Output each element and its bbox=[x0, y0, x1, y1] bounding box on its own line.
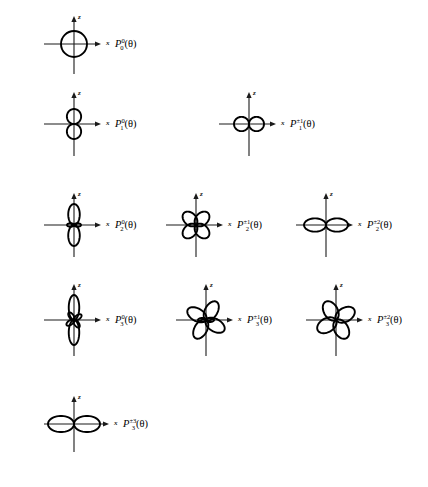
function-subscript: 1 bbox=[120, 124, 123, 131]
x-axis-label: x bbox=[106, 120, 110, 127]
lobe-curve bbox=[68, 204, 80, 225]
polar-plot-panel bbox=[0, 0, 428, 487]
function-label: P±11(θ) bbox=[290, 119, 315, 130]
z-axis-arrowhead bbox=[71, 193, 76, 199]
polar-plot-canvas bbox=[0, 0, 428, 487]
z-axis-label: z bbox=[330, 191, 333, 198]
function-subscript: 2 bbox=[120, 225, 123, 232]
z-axis-label: z bbox=[78, 14, 81, 21]
z-axis-label: z bbox=[210, 282, 213, 289]
lobe-curve bbox=[249, 117, 264, 131]
x-axis-arrowhead bbox=[217, 222, 223, 227]
minor-lobe-curve bbox=[74, 223, 81, 227]
function-argument: (θ) bbox=[124, 118, 136, 129]
polar-plot-panel bbox=[0, 0, 428, 487]
lobe-curve bbox=[187, 307, 206, 322]
polar-plot-panel bbox=[0, 0, 428, 487]
lobe-curve bbox=[304, 218, 326, 231]
lobe-curve bbox=[317, 317, 336, 333]
polar-plot-canvas bbox=[0, 0, 428, 487]
polar-plot-panel bbox=[0, 0, 428, 487]
z-axis-arrowhead bbox=[193, 193, 198, 199]
lobe-curve bbox=[205, 318, 224, 333]
x-axis-arrowhead bbox=[103, 421, 109, 426]
x-axis-label: x bbox=[106, 221, 110, 228]
x-axis-label: x bbox=[114, 420, 118, 427]
x-axis-label: x bbox=[368, 316, 372, 323]
polar-plot-panel bbox=[0, 0, 428, 487]
function-subscript: 3 bbox=[256, 320, 259, 327]
minor-lobe-curve bbox=[67, 223, 74, 227]
minor-lobe-curve bbox=[206, 318, 214, 322]
lobe-curve bbox=[48, 416, 74, 432]
minor-lobe-curve bbox=[198, 318, 206, 322]
x-axis-label: x bbox=[358, 221, 362, 228]
lobe-curve bbox=[193, 319, 208, 338]
function-label: P00(θ) bbox=[115, 39, 136, 50]
legendre-polar-plot-figure: zxP00(θ)zxP01(θ)zxP±11(θ)zxP02(θ)zxP±12(… bbox=[0, 0, 428, 487]
z-axis-label: z bbox=[78, 191, 81, 198]
x-axis-arrowhead bbox=[270, 121, 276, 126]
function-subscript: 2 bbox=[246, 225, 249, 232]
polar-plot-panel bbox=[0, 0, 428, 487]
minor-lobe-curve bbox=[68, 312, 74, 320]
x-axis-label: x bbox=[106, 40, 110, 47]
x-axis-arrowhead bbox=[357, 317, 363, 322]
function-subscript: 2 bbox=[376, 225, 379, 232]
function-subscript: 3 bbox=[386, 320, 389, 327]
lobe-curve bbox=[68, 225, 80, 246]
lobe-curve bbox=[204, 301, 219, 320]
z-axis-arrowhead bbox=[203, 284, 208, 290]
function-argument: (θ) bbox=[260, 314, 272, 325]
lobe-curve bbox=[74, 416, 100, 432]
z-axis-arrowhead bbox=[71, 16, 76, 22]
function-label: P±13(θ) bbox=[247, 315, 272, 326]
function-label: P02(θ) bbox=[115, 220, 136, 231]
z-axis-arrowhead bbox=[323, 193, 328, 199]
function-argument: (θ) bbox=[124, 38, 136, 49]
polar-plot-canvas bbox=[0, 0, 428, 487]
function-subscript: 1 bbox=[299, 124, 302, 131]
z-axis-label: z bbox=[340, 282, 343, 289]
lobe-curve bbox=[67, 109, 81, 124]
lobe-curve bbox=[335, 307, 354, 323]
function-argument: (θ) bbox=[390, 314, 402, 325]
z-axis-label: z bbox=[200, 191, 203, 198]
x-axis-label: x bbox=[228, 221, 232, 228]
function-argument: (θ) bbox=[250, 219, 262, 230]
x-axis-arrowhead bbox=[95, 222, 101, 227]
polar-plot-canvas bbox=[0, 0, 428, 487]
minor-lobe-curve bbox=[73, 320, 79, 328]
polar-plot-panel bbox=[0, 0, 428, 487]
z-axis-arrowhead bbox=[71, 284, 76, 290]
polar-plot-canvas bbox=[0, 0, 428, 487]
x-axis-arrowhead bbox=[95, 317, 101, 322]
function-label: P±12(θ) bbox=[237, 220, 262, 231]
z-axis-label: z bbox=[78, 282, 81, 289]
z-axis-arrowhead bbox=[333, 284, 338, 290]
lobe-curve bbox=[234, 117, 249, 131]
lobe-curve bbox=[69, 320, 79, 345]
function-argument: (θ) bbox=[380, 219, 392, 230]
z-axis-arrowhead bbox=[71, 396, 76, 402]
lobe-curve bbox=[195, 212, 210, 227]
lobe-curve bbox=[67, 124, 81, 139]
lobe-curve bbox=[69, 295, 79, 320]
lobe-curve bbox=[195, 224, 210, 239]
polar-plot-panel bbox=[0, 0, 428, 487]
function-subscript: 3 bbox=[132, 424, 135, 431]
polar-plot-panel bbox=[0, 0, 428, 487]
minor-lobe-curve bbox=[74, 314, 82, 320]
polar-plot-canvas bbox=[0, 0, 428, 487]
polar-plot-canvas bbox=[0, 0, 428, 487]
function-label: P±23(θ) bbox=[377, 315, 402, 326]
lobe-curve bbox=[323, 301, 339, 320]
x-axis-label: x bbox=[106, 316, 110, 323]
function-subscript: 3 bbox=[120, 320, 123, 327]
lobe-curve bbox=[61, 31, 87, 57]
x-axis-arrowhead bbox=[95, 41, 101, 46]
function-argument: (θ) bbox=[136, 418, 148, 429]
lobe-curve bbox=[333, 319, 349, 338]
x-axis-arrowhead bbox=[95, 121, 101, 126]
function-argument: (θ) bbox=[124, 219, 136, 230]
